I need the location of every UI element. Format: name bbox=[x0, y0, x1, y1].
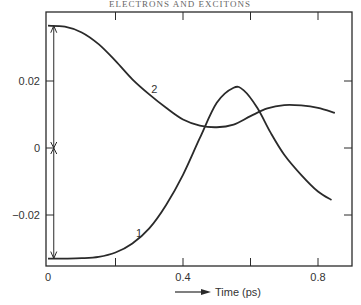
x-tick-label: 0.8 bbox=[310, 271, 325, 283]
x-axis-arrow-head bbox=[201, 289, 211, 295]
series-label-1: 1 bbox=[136, 227, 142, 239]
chart: ELECTRONS AND EXCITONS 12 00.40.8−0.0200… bbox=[0, 0, 361, 305]
x-axis-label: Time (ps) bbox=[215, 286, 261, 298]
x-axis-label-group: Time (ps) bbox=[175, 286, 261, 298]
series-line-1 bbox=[48, 87, 332, 259]
y-tick-label: 0 bbox=[34, 142, 40, 154]
y-tick-label: 0.02 bbox=[19, 75, 40, 87]
series-lines: 12 bbox=[48, 26, 335, 259]
y-tick-label: −0.02 bbox=[12, 209, 40, 221]
x-tick-label: 0 bbox=[45, 271, 51, 283]
annotations bbox=[51, 26, 57, 259]
page-header: ELECTRONS AND EXCITONS bbox=[109, 0, 251, 9]
x-tick-label: 0.4 bbox=[175, 271, 190, 283]
series-line-2 bbox=[48, 26, 335, 128]
series-label-2: 2 bbox=[151, 83, 157, 95]
